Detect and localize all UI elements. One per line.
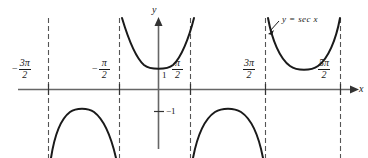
- minus-sign: −: [92, 63, 98, 74]
- y-axis-label: y: [152, 4, 156, 15]
- x-tick-label-pi-over-2: π2: [172, 58, 183, 80]
- fraction-numerator: 3π: [19, 58, 31, 69]
- fraction-5pi-over-2: 5π2: [318, 58, 330, 80]
- x-axis-label: x: [359, 83, 363, 94]
- fraction-numerator: π: [174, 58, 181, 69]
- fraction-denominator: 2: [321, 70, 328, 81]
- minus-sign: −: [12, 63, 18, 74]
- x-tick-label-neg-3pi-over-2: −3π2: [12, 58, 31, 80]
- y-tick-label-one: 1: [162, 70, 167, 80]
- fraction-3pi-over-2: 3π2: [243, 58, 255, 80]
- fraction-pi-over-2: π2: [172, 58, 183, 80]
- fraction-numerator: 5π: [318, 58, 330, 69]
- fraction-denominator: 2: [101, 70, 108, 81]
- fraction-denominator: 2: [246, 70, 253, 81]
- y-tick-label-minus-one: −1: [166, 106, 176, 116]
- fraction-3pi-over-2: 3π2: [19, 58, 31, 80]
- x-tick-label-neg-pi-over-2: −π2: [92, 58, 110, 80]
- fraction-numerator: 3π: [243, 58, 255, 69]
- asymptote-group: [49, 18, 341, 158]
- fraction-denominator: 2: [174, 70, 181, 81]
- x-axis-arrowhead: [350, 86, 359, 94]
- fraction-denominator: 2: [21, 70, 28, 81]
- curve-equation-label: y = sec x: [282, 14, 318, 24]
- x-tick-label-5pi-over-2: 5π2: [318, 58, 330, 80]
- fraction-numerator: π: [101, 58, 108, 69]
- y-axis-arrowhead: [155, 17, 163, 26]
- secant-branch-lower-left: [51, 109, 116, 158]
- x-tick-label-3pi-over-2: 3π2: [243, 58, 255, 80]
- secant-branch-lower-right: [193, 109, 263, 158]
- sec-x-graph-figure: −3π2 −π2 π2 3π2 5π2 1 −1 y x y = sec x: [0, 0, 368, 158]
- fraction-pi-over-2: π2: [99, 58, 110, 80]
- secant-curve: [51, 18, 340, 158]
- curve-label-leader-line: [270, 21, 279, 31]
